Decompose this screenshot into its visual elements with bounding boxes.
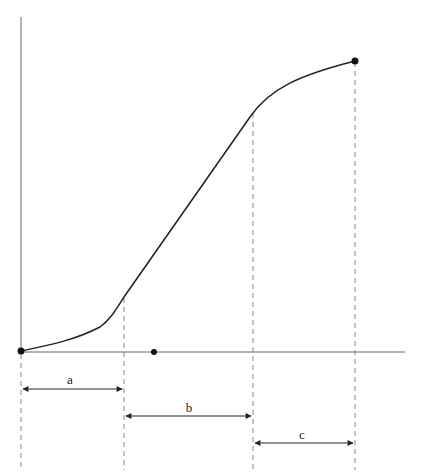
interval-c-label: c [299, 427, 305, 442]
mid-dot [151, 349, 157, 355]
interval-b-label: b [186, 400, 193, 415]
interval-b: b [126, 400, 251, 416]
interval-c: c [255, 427, 353, 443]
end-dot [352, 58, 359, 65]
growth-curve [21, 61, 355, 351]
origin-dot [18, 348, 25, 355]
growth-diagram: a b c [0, 0, 421, 473]
interval-a: a [23, 372, 122, 389]
interval-a-label: a [67, 372, 73, 387]
